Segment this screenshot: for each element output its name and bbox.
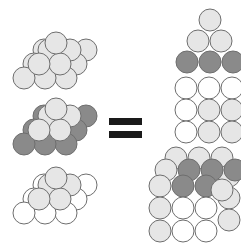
sphere	[28, 119, 50, 141]
left-middle-layer-group	[13, 98, 97, 155]
equals-bar-bottom	[109, 131, 142, 138]
equals-bar-top	[109, 118, 142, 125]
sphere	[149, 175, 171, 197]
sphere	[49, 188, 71, 210]
sphere	[221, 77, 241, 99]
right-pyramid-group	[176, 9, 241, 73]
sphere	[187, 30, 209, 52]
sphere	[210, 30, 232, 52]
sphere	[172, 197, 194, 219]
sphere	[222, 51, 241, 73]
sphere	[28, 53, 50, 75]
sphere	[211, 179, 233, 201]
sphere	[221, 99, 241, 121]
sphere	[199, 51, 221, 73]
sphere	[175, 77, 197, 99]
sphere	[195, 197, 217, 219]
sphere	[198, 121, 220, 143]
sphere	[221, 121, 241, 143]
sphere	[45, 98, 67, 120]
sphere	[45, 32, 67, 54]
sphere	[172, 220, 194, 242]
sphere	[175, 121, 197, 143]
sphere-packing-diagram: =	[0, 0, 241, 251]
sphere	[224, 159, 241, 181]
sphere	[199, 9, 221, 31]
sphere	[28, 188, 50, 210]
sphere	[198, 99, 220, 121]
sphere	[49, 53, 71, 75]
sphere	[172, 175, 194, 197]
right-stack-group	[149, 147, 241, 242]
sphere	[176, 51, 198, 73]
diagram-canvas	[0, 0, 241, 251]
sphere	[149, 220, 171, 242]
sphere	[49, 119, 71, 141]
right-square-grid-group	[175, 77, 241, 143]
sphere	[149, 197, 171, 219]
left-bottom-layer-group	[13, 167, 97, 224]
left-top-layer-group	[13, 32, 97, 89]
sphere	[175, 99, 197, 121]
sphere	[198, 77, 220, 99]
sphere	[195, 220, 217, 242]
equals-sign	[109, 118, 142, 138]
sphere	[218, 209, 240, 231]
sphere	[45, 167, 67, 189]
